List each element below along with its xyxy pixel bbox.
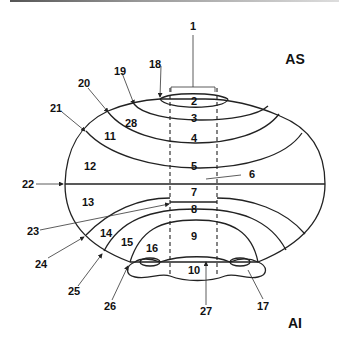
arrow-19 (122, 73, 134, 104)
label-21: 21 (50, 102, 62, 114)
label-8: 8 (191, 203, 197, 215)
bracket-1 (171, 35, 215, 92)
label-1: 1 (190, 20, 196, 32)
arrow-21 (62, 112, 85, 131)
label-23: 23 (27, 225, 39, 237)
arc-13-14-right (217, 198, 305, 234)
arc-13-14-left (86, 198, 170, 235)
label-2: 2 (191, 95, 197, 107)
label-17: 17 (257, 300, 269, 312)
label-ai: AI (288, 315, 302, 331)
label-9: 9 (191, 230, 197, 242)
label-27: 27 (200, 305, 212, 317)
label-12: 12 (84, 160, 96, 172)
label-as: AS (285, 51, 304, 67)
label-25: 25 (68, 285, 80, 297)
label-18: 18 (149, 58, 161, 70)
label-11: 11 (104, 130, 116, 142)
label-16: 16 (146, 242, 158, 254)
label-6: 6 (249, 168, 255, 180)
arc-3-4 (134, 104, 268, 120)
arrow-25 (78, 254, 102, 286)
label-10: 10 (188, 264, 200, 276)
label-13: 13 (82, 196, 94, 208)
arrow-17 (248, 270, 263, 299)
label-22: 22 (22, 178, 34, 190)
arrow-18 (160, 66, 161, 97)
label-19: 19 (114, 65, 126, 77)
label-15: 15 (121, 236, 133, 248)
label-26: 26 (104, 300, 116, 312)
label-24: 24 (35, 258, 48, 270)
arrow-26 (112, 266, 128, 300)
anatomical-diagram: 1 2 3 4 5 6 7 8 9 10 11 12 13 14 15 16 1… (0, 0, 339, 338)
arrow-24 (48, 237, 84, 258)
label-28: 28 (125, 117, 137, 129)
label-14: 14 (100, 227, 113, 239)
label-7: 7 (191, 186, 197, 198)
arrow-6 (206, 175, 241, 179)
arrow-20 (88, 88, 108, 112)
label-3: 3 (191, 112, 197, 124)
label-20: 20 (78, 77, 90, 89)
label-5: 5 (191, 160, 197, 172)
label-4: 4 (191, 132, 198, 144)
